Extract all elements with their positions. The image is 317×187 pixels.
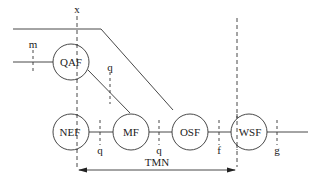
node-label-mf: MF [123, 126, 139, 138]
refpoint-label-m: m [29, 38, 38, 50]
node-label-qaf: QAF [60, 56, 82, 68]
refpoint-label-g: g [274, 144, 280, 156]
arrowhead-left-icon [78, 168, 87, 173]
refpoint-label-x: x [74, 3, 80, 15]
node-label-osf: OSF [180, 126, 200, 138]
refpoint-label-q-upper: q [107, 61, 113, 73]
refpoint-label-f: f [217, 144, 221, 156]
tmn-label: TMN [145, 156, 170, 168]
refpoint-label-q-2: q [156, 144, 162, 156]
qaf-mf-line [88, 70, 130, 113]
arrowhead-right-icon [227, 168, 236, 173]
tmn-diagram: QAF NEF MF OSF WSF x m q q q f g TMN [0, 0, 317, 187]
node-label-nef: NEF [60, 126, 81, 138]
node-label-wsf: WSF [239, 126, 262, 138]
refpoint-label-q-1: q [97, 144, 103, 156]
